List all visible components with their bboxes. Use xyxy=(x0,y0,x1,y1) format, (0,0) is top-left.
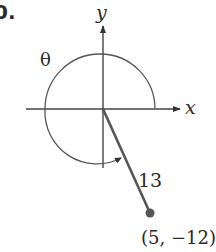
y-axis-label: y xyxy=(96,3,107,22)
diagram-graphics xyxy=(0,0,216,252)
angle-label: θ xyxy=(40,51,51,69)
terminal-side-diagram: 0. y x θ 13 (5, −12) xyxy=(0,0,216,252)
x-axis-label: x xyxy=(185,98,196,117)
point-coordinates-label: (5, −12) xyxy=(141,229,216,247)
problem-number: 0. xyxy=(0,2,16,22)
segment-length-label: 13 xyxy=(138,171,162,190)
point-marker xyxy=(146,209,155,218)
terminal-side-segment xyxy=(103,109,150,213)
